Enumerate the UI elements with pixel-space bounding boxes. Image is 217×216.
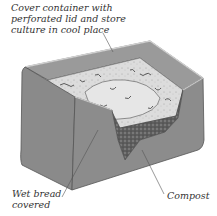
label-cover-container: Cover container with perforated lid and … [11, 2, 126, 35]
label-compost: Compost [167, 190, 210, 201]
label-wet-bread: Wet bread covered [12, 188, 61, 210]
